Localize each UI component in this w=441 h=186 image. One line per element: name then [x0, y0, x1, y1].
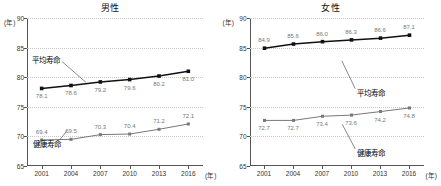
data-point-label: 73.6	[345, 120, 357, 126]
y-axis-tick-label: 80	[239, 74, 246, 81]
y-axis-tick-label: 75	[17, 103, 24, 110]
data-point-label: 71.2	[153, 118, 165, 124]
chart-title-female: 女性	[221, 1, 441, 14]
y-axis-tick-mark	[247, 166, 250, 167]
x-axis-tick-mark	[71, 166, 72, 169]
x-axis-tick-label: 2010	[344, 170, 358, 177]
data-point-marker	[70, 138, 73, 141]
y-axis-unit-female: (年)	[223, 17, 234, 27]
y-axis-tick-mark	[24, 166, 27, 167]
data-point-label: 73.4	[316, 121, 328, 127]
x-axis-tick-mark	[188, 166, 189, 169]
y-axis-tick-label: 70	[239, 133, 246, 140]
data-point-label: 74.2	[374, 117, 386, 123]
data-point-label: 72.7	[258, 125, 270, 131]
data-point-label: 70.3	[94, 124, 106, 130]
data-point-label: 86.0	[316, 31, 328, 37]
x-axis-tick-mark	[351, 166, 352, 169]
y-axis-tick-label: 90	[17, 15, 24, 22]
y-axis-tick-label: 65	[239, 163, 246, 170]
data-point-marker	[320, 40, 324, 44]
x-axis-tick-label: 2013	[373, 170, 387, 177]
data-point-label: 72.1	[182, 113, 194, 119]
data-point-marker	[407, 33, 411, 37]
data-point-label: 72.7	[287, 125, 299, 131]
data-point-marker	[291, 42, 295, 46]
series-layer	[250, 18, 424, 166]
x-axis-unit-male: (年)	[205, 170, 216, 180]
data-point-marker	[350, 114, 353, 117]
x-axis-tick-mark	[100, 166, 101, 169]
chart-panel-male: 男性 (年) (年) 65707580859020012004200720102…	[0, 0, 221, 186]
data-point-label: 79.2	[94, 87, 106, 93]
chart-pair-container: 男性 (年) (年) 65707580859020012004200720102…	[0, 0, 441, 186]
data-point-label: 80.2	[153, 81, 165, 87]
x-axis-tick-label: 2004	[64, 170, 78, 177]
data-point-marker	[349, 38, 353, 42]
series-annotation-label: 平均寿命	[357, 87, 385, 98]
data-point-label: 84.9	[258, 37, 270, 43]
data-point-marker	[321, 115, 324, 118]
data-point-label: 86.3	[345, 29, 357, 35]
x-axis-tick-mark	[264, 166, 265, 169]
x-axis-tick-label: 2001	[257, 170, 271, 177]
x-axis-tick-label: 2007	[93, 170, 107, 177]
x-axis-tick-label: 2010	[122, 170, 136, 177]
annotation-leader-line	[342, 124, 355, 149]
x-axis-tick-mark	[42, 166, 43, 169]
y-axis-tick-label: 65	[17, 163, 24, 170]
data-point-marker	[128, 133, 131, 136]
x-axis-tick-mark	[409, 166, 410, 169]
series-annotation-label: 健康寿命	[33, 138, 61, 149]
x-axis-tick-label: 2001	[34, 170, 48, 177]
x-axis-unit-female: (年)	[426, 170, 437, 180]
data-point-marker	[292, 119, 295, 122]
data-point-marker	[378, 36, 382, 40]
series-annotation-label: 平均寿命	[32, 53, 60, 64]
chart-panel-female: 女性 (年) (年) 65707580859020012004200720102…	[221, 0, 441, 186]
y-axis-tick-label: 90	[239, 15, 246, 22]
series-annotation-label: 健康寿命	[357, 146, 385, 157]
y-axis-tick-label: 85	[239, 44, 246, 51]
data-point-label: 69.5	[65, 128, 77, 134]
data-point-marker	[99, 133, 102, 136]
data-point-marker	[187, 69, 191, 73]
x-axis-tick-mark	[159, 166, 160, 169]
y-axis-tick-label: 70	[17, 133, 24, 140]
data-point-marker	[379, 110, 382, 113]
x-axis-tick-mark	[293, 166, 294, 169]
series-line	[42, 71, 189, 88]
data-point-marker	[158, 128, 161, 131]
data-point-marker	[262, 46, 266, 50]
x-axis-tick-label: 2016	[402, 170, 416, 177]
data-point-marker	[187, 122, 190, 125]
data-point-label: 87.1	[403, 24, 415, 30]
data-point-label: 78.1	[36, 93, 48, 99]
data-point-label: 81.0	[182, 76, 194, 82]
data-point-label: 74.8	[403, 113, 415, 119]
data-point-label: 69.4	[36, 129, 48, 135]
data-point-label: 78.6	[65, 90, 77, 96]
data-point-label: 79.6	[124, 85, 136, 91]
annotation-leader-line	[341, 61, 354, 89]
data-point-marker	[157, 74, 161, 78]
data-point-marker	[263, 119, 266, 122]
x-axis-tick-mark	[322, 166, 323, 169]
x-axis-tick-mark	[130, 166, 131, 169]
data-point-label: 86.6	[374, 27, 386, 33]
chart-title-male: 男性	[0, 1, 221, 14]
x-axis-tick-label: 2016	[181, 170, 195, 177]
series-line	[42, 124, 189, 140]
y-axis-tick-label: 80	[17, 74, 24, 81]
series-line	[264, 35, 409, 48]
x-axis-tick-label: 2007	[315, 170, 329, 177]
y-axis-tick-label: 75	[239, 103, 246, 110]
data-point-marker	[69, 84, 73, 88]
data-point-marker	[40, 87, 44, 91]
data-point-marker	[128, 78, 132, 82]
data-point-label: 70.4	[124, 123, 136, 129]
x-axis-tick-mark	[380, 166, 381, 169]
plot-area-female: 65707580859020012004200720102013201684.9…	[250, 18, 424, 166]
annotation-leader-line	[62, 62, 86, 83]
data-point-marker	[99, 80, 103, 84]
